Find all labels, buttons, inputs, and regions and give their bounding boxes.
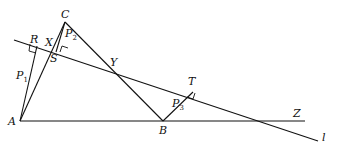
label-y: Y bbox=[110, 56, 119, 69]
side-bc bbox=[65, 22, 163, 121]
perpendicular-p2 bbox=[56, 22, 65, 52]
label-c: C bbox=[61, 8, 70, 21]
label-x: X bbox=[44, 36, 54, 49]
label-s: S bbox=[50, 52, 58, 65]
label-r: R bbox=[29, 33, 38, 46]
right-angle-mark-s bbox=[60, 46, 68, 52]
label-b: B bbox=[158, 124, 167, 137]
label-p1: P1 bbox=[15, 69, 28, 84]
menelaus-diagram: C R X S Y T A B Z l P1 P2 P3 bbox=[0, 0, 338, 145]
label-p2: P2 bbox=[64, 27, 77, 42]
label-p3: P3 bbox=[171, 97, 184, 112]
side-ac bbox=[20, 22, 65, 121]
label-z: Z bbox=[292, 107, 301, 120]
label-a: A bbox=[7, 115, 16, 128]
label-t: T bbox=[188, 75, 197, 88]
label-l: l bbox=[322, 131, 326, 144]
